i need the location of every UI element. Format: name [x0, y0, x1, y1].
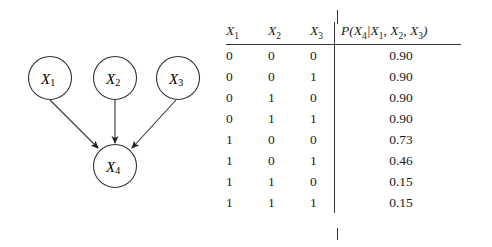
cell-x3: 0 — [310, 87, 335, 108]
header-x1: X1 — [226, 22, 268, 45]
node-x1-sub: 1 — [50, 77, 55, 88]
table-row: 0 1 0 0.90 — [226, 87, 461, 108]
cell-x1: 1 — [226, 171, 268, 192]
node-x3-sub: 3 — [178, 77, 183, 88]
cell-x2: 1 — [268, 108, 310, 129]
cell-x3: 1 — [310, 150, 335, 171]
cell-x2: 1 — [268, 87, 310, 108]
node-x3: X3 — [157, 57, 200, 100]
header-x3: X3 — [310, 22, 335, 45]
cell-x3: 0 — [310, 171, 335, 192]
cell-x1: 1 — [226, 129, 268, 150]
cell-x2: 1 — [268, 192, 310, 213]
bayesian-network-graph: X1 X2 X3 X4 — [0, 0, 220, 247]
cell-x3: 1 — [310, 192, 335, 213]
cell-probability: 0.90 — [335, 66, 462, 87]
edges — [50, 100, 176, 148]
cell-x1: 0 — [226, 87, 268, 108]
node-x4: X4 — [94, 145, 137, 188]
cell-x2: 0 — [268, 66, 310, 87]
table-row: 1 0 1 0.46 — [226, 150, 461, 171]
cell-x1: 0 — [226, 66, 268, 87]
cell-x1: 0 — [226, 45, 268, 67]
edge-x3-x4 — [132, 100, 176, 148]
cell-probability: 0.73 — [335, 129, 462, 150]
cell-probability: 0.15 — [335, 192, 462, 213]
cell-probability: 0.15 — [335, 171, 462, 192]
node-x2: X2 — [94, 57, 137, 100]
cpt-table: X1 X2 X3 P(X4|X1, X2, X3) 0 0 0 0.90 0 0… — [226, 22, 461, 213]
cell-x2: 0 — [268, 129, 310, 150]
cell-probability: 0.90 — [335, 87, 462, 108]
table-header-row: X1 X2 X3 P(X4|X1, X2, X3) — [226, 22, 461, 45]
table-row: 0 0 0 0.90 — [226, 45, 461, 67]
table-row: 0 0 1 0.90 — [226, 66, 461, 87]
node-x4-sub: 4 — [115, 165, 120, 176]
cell-x1: 1 — [226, 150, 268, 171]
conditional-probability-table: X1 X2 X3 P(X4|X1, X2, X3) 0 0 0 0.90 0 0… — [226, 22, 461, 213]
cell-x2: 1 — [268, 171, 310, 192]
cell-x3: 0 — [310, 45, 335, 67]
cell-probability: 0.46 — [335, 150, 462, 171]
header-probability: P(X4|X1, X2, X3) — [335, 22, 462, 45]
node-x2-sub: 2 — [115, 77, 120, 88]
cell-probability: 0.90 — [335, 108, 462, 129]
node-x1: X1 — [29, 57, 72, 100]
edge-x1-x4 — [50, 100, 98, 148]
cell-x3: 1 — [310, 66, 335, 87]
header-x2: X2 — [268, 22, 310, 45]
cell-probability: 0.90 — [335, 45, 462, 67]
table-row: 0 1 1 0.90 — [226, 108, 461, 129]
table-row: 1 1 0 0.15 — [226, 171, 461, 192]
table-row: 1 1 1 0.15 — [226, 192, 461, 213]
table-divider-bottom — [337, 228, 338, 240]
cell-x1: 1 — [226, 192, 268, 213]
cell-x2: 0 — [268, 45, 310, 67]
cell-x3: 1 — [310, 108, 335, 129]
cell-x2: 0 — [268, 150, 310, 171]
cell-x1: 0 — [226, 108, 268, 129]
table-row: 1 0 0 0.73 — [226, 129, 461, 150]
cell-x3: 0 — [310, 129, 335, 150]
